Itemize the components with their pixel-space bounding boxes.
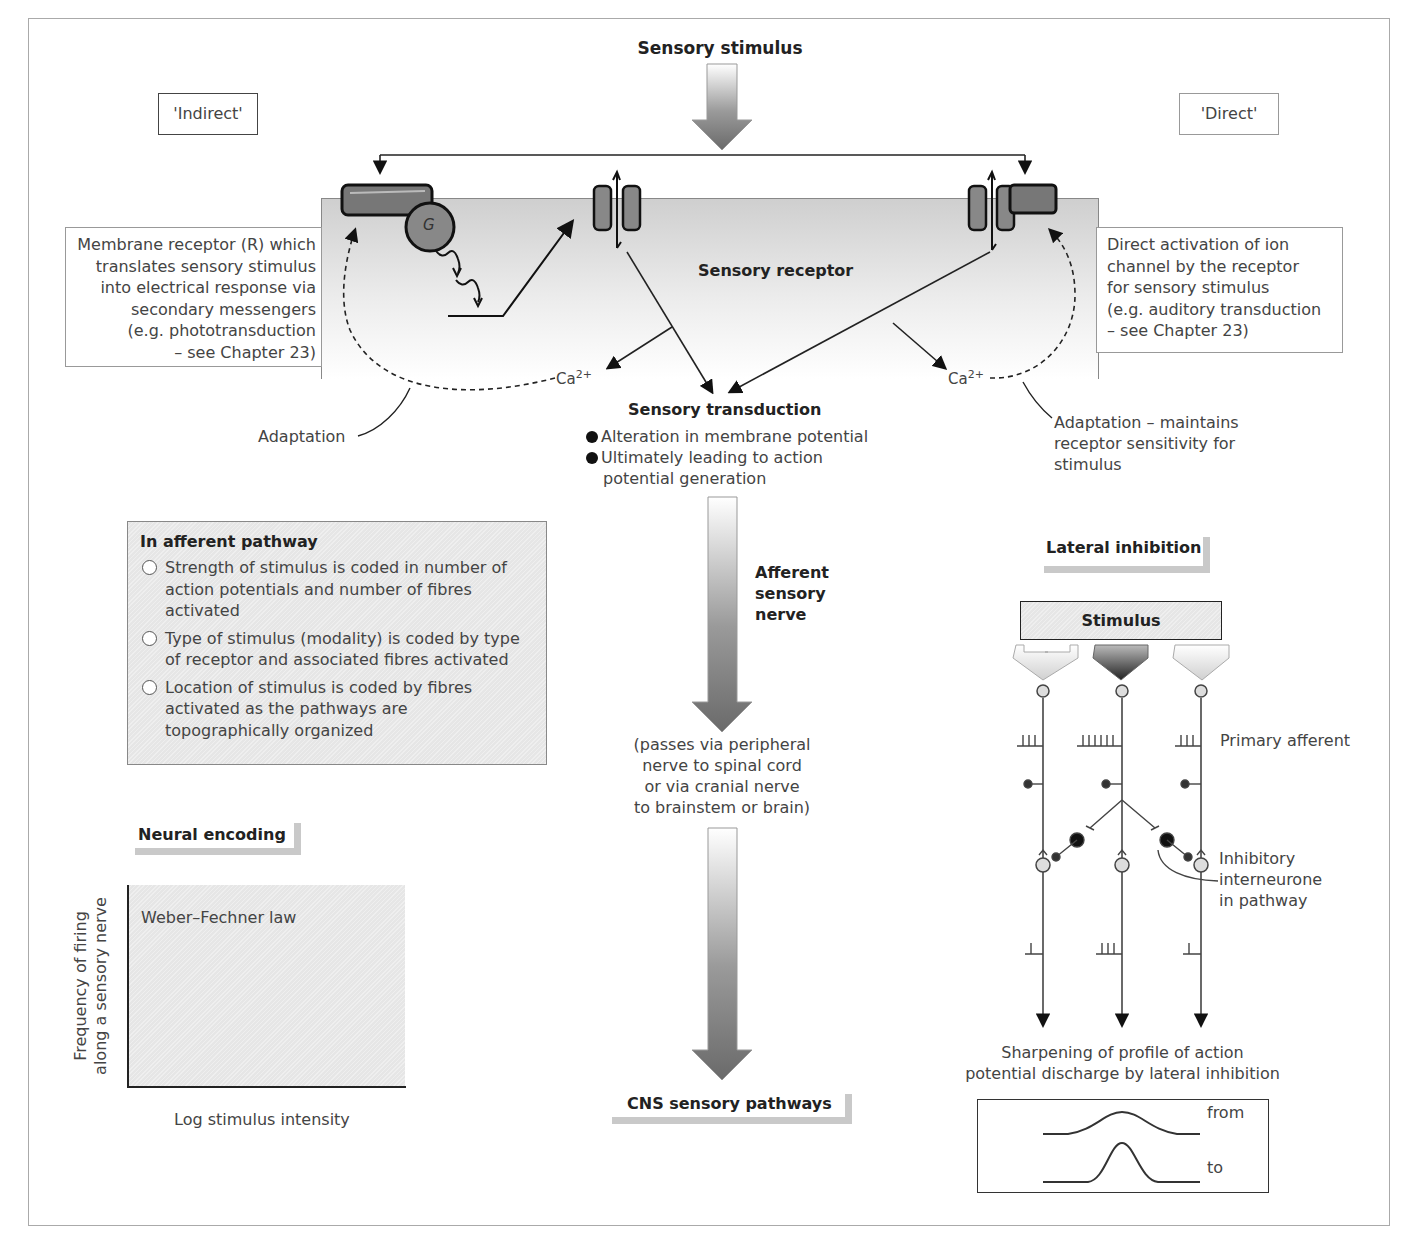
- adaptation-right-line: stimulus: [1054, 454, 1239, 475]
- sharpening-caption: Sharpening of profile of action potentia…: [950, 1042, 1295, 1084]
- split-arrow-lines: [380, 155, 1025, 172]
- g-protein-label: G: [423, 216, 435, 234]
- ylabel-line: along a sensory nerve: [91, 886, 111, 1086]
- afferent-label-line: Afferent: [755, 562, 829, 583]
- item-line: activated as the pathways are: [165, 698, 472, 720]
- item-text: Type of stimulus (modality) is coded by …: [165, 628, 520, 671]
- calcium-symbol: Ca: [556, 370, 576, 388]
- indirect-callout-line: secondary messengers: [66, 299, 316, 321]
- note-line: or via cranial nerve: [617, 776, 827, 797]
- afferent-route-note: (passes via peripheral nerve to spinal c…: [617, 734, 827, 818]
- item-line: activated: [165, 600, 507, 622]
- item-line: action potentials and number of fibres: [165, 579, 507, 601]
- item-line: Type of stimulus (modality) is coded by …: [165, 628, 520, 650]
- chart-y-axis: [127, 885, 129, 1088]
- ylabel-line: Frequency of firing: [71, 886, 91, 1086]
- interneurone-line: Inhibitory: [1219, 848, 1322, 869]
- item-text: Location of stimulus is coded by fibres …: [165, 677, 472, 742]
- afferent-label-line: nerve: [755, 604, 829, 625]
- circle-bullet-icon: [142, 680, 157, 695]
- afferent-item-location: Location of stimulus is coded by fibres …: [140, 677, 534, 742]
- caption-line: Sharpening of profile of action: [950, 1042, 1295, 1063]
- afferent-item-strength: Strength of stimulus is coded in number …: [140, 557, 534, 622]
- direct-callout-line: Direct activation of ion: [1107, 234, 1342, 256]
- adaptation-label-right: Adaptation – maintains receptor sensitiv…: [1054, 412, 1239, 475]
- afferent-pathway-box: In afferent pathway Strength of stimulus…: [127, 521, 547, 765]
- collateral-synapses: [1024, 780, 1201, 788]
- item-line: topographically organized: [165, 720, 472, 742]
- indirect-callout-line: into electrical response via: [66, 277, 316, 299]
- adaptation-feedback-right: [990, 230, 1075, 378]
- note-line: to brainstem or brain): [617, 797, 827, 818]
- calcium-label-right: Ca2+: [948, 364, 984, 390]
- stimulus-box: Stimulus: [1020, 601, 1222, 640]
- ion-channel-direct-icon: [969, 172, 1056, 250]
- calcium-symbol: Ca: [948, 370, 968, 388]
- transduction-bullet-continuation: potential generation: [586, 468, 868, 489]
- afferent-pathway-title: In afferent pathway: [140, 532, 534, 551]
- transduction-bullets: Alteration in membrane potential Ultimat…: [586, 426, 868, 489]
- afferent-nerve-arrow: [692, 497, 752, 732]
- indirect-callout-line: – see Chapter 23): [66, 342, 316, 364]
- caption-line: potential discharge by lateral inhibitio…: [950, 1063, 1295, 1084]
- neural-encoding-title: Neural encoding: [135, 823, 293, 847]
- second-messenger-squiggle: [436, 222, 572, 316]
- primary-afferent-label: Primary afferent: [1220, 730, 1350, 751]
- lateral-inhibition-title: Lateral inhibition: [1044, 537, 1202, 565]
- chart-y-label: Frequency of firing along a sensory nerv…: [71, 886, 111, 1086]
- circle-bullet-icon: [142, 560, 157, 575]
- direct-label: 'Direct': [1179, 93, 1279, 135]
- note-line: (passes via peripheral: [617, 734, 827, 755]
- afferent-nerve-label: Afferent sensory nerve: [755, 562, 829, 625]
- bullet-icon: [586, 431, 598, 443]
- calcium-charge: 2+: [576, 368, 592, 381]
- circle-bullet-icon: [142, 631, 157, 646]
- item-line: of receptor and associated fibres activa…: [165, 649, 520, 671]
- indirect-callout: Membrane receptor (R) which translates s…: [65, 227, 322, 367]
- ion-channel-indirect-icon: [594, 172, 640, 248]
- item-line: Location of stimulus is coded by fibres: [165, 677, 472, 699]
- profile-from-label: from: [1207, 1102, 1244, 1123]
- direct-callout-line: (e.g. auditory transduction: [1107, 299, 1342, 321]
- calcium-charge: 2+: [968, 368, 984, 381]
- stimulus-split-arrows: [1013, 645, 1229, 680]
- interneurone-line: in pathway: [1219, 890, 1322, 911]
- bullet-text: Ultimately leading to action: [601, 448, 823, 467]
- transduction-bullet-item: Alteration in membrane potential: [586, 426, 868, 447]
- direct-callout-line: channel by the receptor: [1107, 256, 1342, 278]
- interneurone-line: interneurone: [1219, 869, 1322, 890]
- adaptation-label-left: Adaptation: [258, 426, 346, 447]
- cns-sensory-pathways-label: CNS sensory pathways: [612, 1094, 844, 1116]
- item-text: Strength of stimulus is coded in number …: [165, 557, 507, 622]
- profile-to-label: to: [1207, 1157, 1223, 1178]
- afferent-item-modality: Type of stimulus (modality) is coded by …: [140, 628, 534, 671]
- bullet-icon: [586, 452, 598, 464]
- action-potential-spikes-top: [1017, 735, 1201, 746]
- item-line: Strength of stimulus is coded in number …: [165, 557, 507, 579]
- adaptation-right-line: Adaptation – maintains: [1054, 412, 1239, 433]
- direct-callout-line: – see Chapter 23): [1107, 320, 1342, 342]
- adaptation-feedback-left: [344, 230, 555, 390]
- indirect-label: 'Indirect': [158, 93, 258, 135]
- adaptation-right-line: receptor sensitivity for: [1054, 433, 1239, 454]
- transduction-bullet-item: Ultimately leading to action: [586, 447, 868, 468]
- cns-arrow: [692, 828, 752, 1080]
- action-potential-spikes-bottom: [1025, 943, 1201, 954]
- sensory-receptor-label: Sensory receptor: [698, 261, 853, 280]
- note-line: nerve to spinal cord: [617, 755, 827, 776]
- direct-callout-line: for sensory stimulus: [1107, 277, 1342, 299]
- afferent-label-line: sensory: [755, 583, 829, 604]
- calcium-label-left: Ca2+: [556, 364, 592, 390]
- chart-x-axis: [127, 1086, 406, 1088]
- indirect-callout-line: (e.g. phototransduction: [66, 320, 316, 342]
- inhibitory-interneurone-label: Inhibitory interneurone in pathway: [1219, 848, 1322, 911]
- direct-callout: Direct activation of ion channel by the …: [1096, 227, 1343, 353]
- stimulus-arrow: [692, 64, 752, 150]
- chart-title: Weber–Fechner law: [141, 907, 296, 928]
- indirect-callout-line: Membrane receptor (R) which: [66, 234, 316, 256]
- chart-x-label: Log stimulus intensity: [174, 1109, 350, 1130]
- sensory-stimulus-title: Sensory stimulus: [620, 38, 820, 58]
- bullet-text: Alteration in membrane potential: [601, 427, 868, 446]
- indirect-callout-line: translates sensory stimulus: [66, 256, 316, 278]
- sensory-transduction-title: Sensory transduction: [628, 400, 821, 419]
